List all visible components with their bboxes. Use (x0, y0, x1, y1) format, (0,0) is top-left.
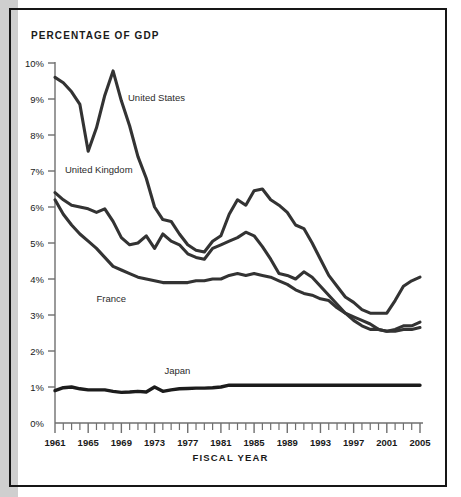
x-axis-tick-label: 1993 (310, 437, 331, 448)
series-line-united-states (55, 71, 420, 313)
y-axis-tick-label: 9% (30, 94, 44, 105)
x-axis-tick-label: 1973 (144, 437, 165, 448)
y-axis-tick-label: 1% (30, 382, 44, 393)
y-axis-tick-label: 4% (30, 274, 44, 285)
figure-page: PERCENTAGE OF GDP 0%1%2%3%4%5%6%7%8%9%10… (0, 0, 461, 497)
y-axis-tick-label: 6% (30, 202, 44, 213)
y-axis-tick-label: 3% (30, 310, 44, 321)
x-axis-tick-label: 2005 (409, 437, 431, 448)
chart-series (55, 71, 420, 392)
line-chart-plot: 0%1%2%3%4%5%6%7%8%9%10%19611965196919731… (0, 0, 461, 497)
x-axis-title: FISCAL YEAR (0, 452, 461, 463)
x-axis-tick-label: 1997 (343, 437, 364, 448)
series-label-united-kingdom: United Kingdom (65, 164, 133, 175)
y-axis-tick-label: 10% (25, 58, 45, 69)
x-axis-tick-label: 1969 (111, 437, 132, 448)
series-label-japan: Japan (165, 365, 191, 376)
x-axis-tick-label: 1981 (210, 437, 232, 448)
x-axis-tick-label: 2001 (376, 437, 398, 448)
y-axis-tick-label: 8% (30, 130, 44, 141)
x-axis-tick-label: 1989 (277, 437, 298, 448)
y-axis-tick-label: 5% (30, 238, 44, 249)
x-axis-tick-label: 1977 (177, 437, 198, 448)
series-label-united-states: United States (128, 92, 185, 103)
y-axis-tick-label: 0% (30, 418, 44, 429)
y-axis-tick-label: 7% (30, 166, 44, 177)
x-axis-tick-label: 1985 (244, 437, 266, 448)
series-label-france: France (96, 293, 126, 304)
y-axis-tick-label: 2% (30, 346, 44, 357)
series-line-japan (55, 385, 420, 392)
x-axis-tick-label: 1965 (78, 437, 100, 448)
x-axis-tick-label: 1961 (44, 437, 66, 448)
